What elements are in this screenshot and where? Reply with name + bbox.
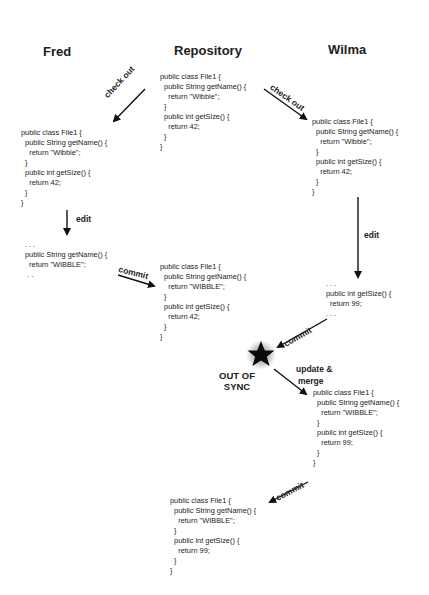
label-fred-edit: edit — [76, 214, 91, 224]
label-wilma-edit: edit — [364, 230, 379, 240]
out-of-sync-line1: OUT OF — [214, 370, 260, 381]
arrows-layer — [0, 0, 429, 595]
out-of-sync-line2: SYNC — [214, 381, 260, 392]
arrow-fred-checkout — [114, 89, 145, 121]
out-of-sync-label: OUT OF SYNC — [214, 370, 260, 392]
star-icon — [246, 340, 276, 370]
label-update-merge-1: update & — [296, 364, 332, 374]
label-update-merge-2: merge — [298, 376, 324, 386]
